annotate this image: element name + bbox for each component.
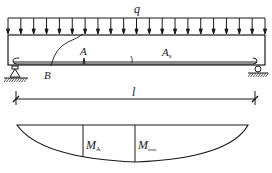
beam (8, 35, 265, 65)
roller-support-right (248, 66, 269, 77)
dimension-line (13, 91, 258, 105)
moment-max-label: Mmax (137, 138, 157, 152)
rebar (13, 58, 257, 64)
rebar-area-label: As (161, 46, 172, 60)
span-label-l: l (132, 85, 136, 99)
load-label-q: q (134, 2, 140, 16)
crack-line (51, 34, 83, 66)
point-a-label: A (79, 45, 87, 57)
moment-a-label: MA (85, 138, 101, 152)
distributed-load (7, 18, 267, 34)
pin-support-left (4, 66, 28, 82)
moment-diagram (17, 125, 248, 162)
beam-diagram: q A B As l (0, 0, 272, 173)
point-a-mark (83, 58, 85, 64)
point-b-label: B (44, 69, 51, 81)
